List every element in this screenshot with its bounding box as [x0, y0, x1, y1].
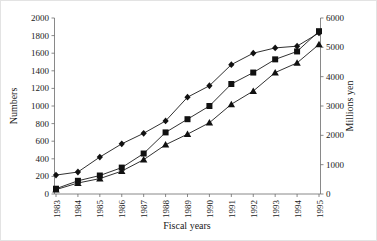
- square-marker: [294, 48, 300, 54]
- y-right-tick-label: 3000: [326, 101, 345, 111]
- diamond-series-line: [56, 33, 319, 175]
- triangle-marker: [140, 156, 147, 163]
- diamond-marker: [53, 172, 59, 179]
- left-axis-title: Numbers: [8, 88, 19, 125]
- y-left-tick-label: 1200: [31, 83, 50, 93]
- triangle-marker: [271, 69, 278, 76]
- x-tick-label: 1988: [161, 200, 171, 219]
- chart-generated-layer: 0200400600800100012001400160018002000010…: [31, 13, 345, 218]
- x-tick-label: 1987: [139, 200, 149, 219]
- diamond-marker: [75, 169, 81, 176]
- chart-svg: 0200400600800100012001400160018002000010…: [1, 1, 376, 240]
- x-tick-label: 1991: [227, 200, 237, 218]
- x-tick-label: 1992: [249, 200, 259, 218]
- diamond-marker: [119, 140, 125, 147]
- square-marker: [185, 116, 191, 122]
- y-right-tick-label: 4000: [326, 72, 345, 82]
- x-tick-label: 1994: [293, 200, 303, 219]
- diamond-marker: [250, 50, 256, 57]
- right-axis-title: Millions yen: [344, 81, 355, 132]
- x-tick-label: 1989: [183, 200, 193, 219]
- square-marker: [272, 56, 278, 62]
- y-right-tick-label: 5000: [326, 42, 345, 52]
- line-chart-figure: 0200400600800100012001400160018002000010…: [0, 0, 377, 241]
- y-left-tick-label: 1400: [31, 66, 50, 76]
- y-left-tick-label: 1600: [31, 48, 50, 58]
- y-left-tick-label: 0: [45, 189, 50, 199]
- triangle-marker: [315, 41, 322, 48]
- triangle-marker: [162, 141, 169, 148]
- x-tick-label: 1990: [205, 200, 215, 219]
- x-tick-label: 1985: [95, 200, 105, 219]
- square-marker: [163, 129, 169, 135]
- square-marker: [141, 151, 147, 157]
- diamond-marker: [97, 154, 103, 161]
- x-tick-label: 1995: [315, 200, 325, 219]
- y-left-tick-label: 600: [36, 136, 50, 146]
- y-left-tick-label: 400: [36, 154, 50, 164]
- triangle-marker: [228, 101, 235, 108]
- x-tick-label: 1993: [271, 200, 281, 219]
- square-marker: [250, 70, 256, 76]
- y-left-tick-label: 200: [36, 171, 50, 181]
- y-right-tick-label: 6000: [326, 13, 345, 23]
- triangle-marker: [184, 131, 191, 138]
- x-axis-title: Fiscal years: [163, 220, 211, 231]
- square-marker: [316, 28, 322, 34]
- axis-frame: [55, 18, 321, 194]
- y-left-tick-label: 1800: [31, 31, 50, 41]
- diamond-marker: [141, 130, 147, 137]
- x-tick-label: 1983: [52, 200, 62, 219]
- y-right-tick-label: 0: [326, 189, 331, 199]
- x-tick-label: 1986: [117, 200, 127, 219]
- y-left-tick-label: 1000: [31, 101, 50, 111]
- y-right-tick-label: 1000: [326, 160, 345, 170]
- square-marker: [228, 81, 234, 87]
- square-marker: [206, 103, 212, 109]
- y-right-tick-label: 2000: [326, 130, 345, 140]
- y-left-tick-label: 2000: [31, 13, 50, 23]
- diamond-marker: [272, 45, 278, 52]
- x-tick-label: 1984: [73, 200, 83, 219]
- y-left-tick-label: 800: [36, 119, 50, 129]
- square-series-line: [56, 31, 319, 189]
